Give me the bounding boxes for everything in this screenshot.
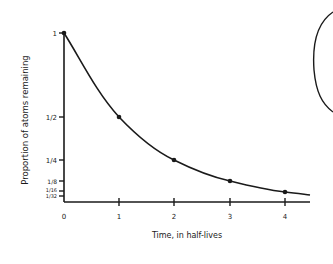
data-point — [117, 115, 122, 120]
x-tick-labels: 0 1 2 3 4 — [62, 213, 288, 221]
y-tick-label: 1/32 — [46, 193, 57, 199]
x-tick-label: 0 — [62, 213, 66, 221]
data-points — [62, 31, 288, 195]
y-tick-labels: 1 1/2 1/4 1/8 1/16 1/32 — [46, 30, 58, 199]
y-tick-label: 1/4 — [46, 157, 58, 165]
data-point — [283, 190, 288, 195]
x-tick-label: 2 — [172, 213, 176, 221]
data-point — [62, 31, 67, 36]
y-axis-label: Proportion of atoms remaining — [20, 55, 30, 185]
y-tick-label: 1/2 — [46, 114, 57, 122]
data-point — [172, 158, 177, 163]
x-tick-label: 4 — [283, 213, 288, 221]
y-tick-label: 1/8 — [47, 178, 57, 185]
x-axis-label: Time, in half-lives — [151, 231, 222, 240]
x-tick-label: 1 — [117, 213, 121, 221]
decay-chart: 1 1/2 1/4 1/8 1/16 1/32 0 1 2 3 4 Time, … — [0, 0, 333, 264]
x-tick-label: 3 — [228, 213, 232, 221]
decay-curve — [64, 33, 310, 195]
data-point — [228, 179, 233, 184]
y-tick-label: 1 — [53, 30, 57, 38]
partial-circle-outline — [314, 12, 333, 112]
